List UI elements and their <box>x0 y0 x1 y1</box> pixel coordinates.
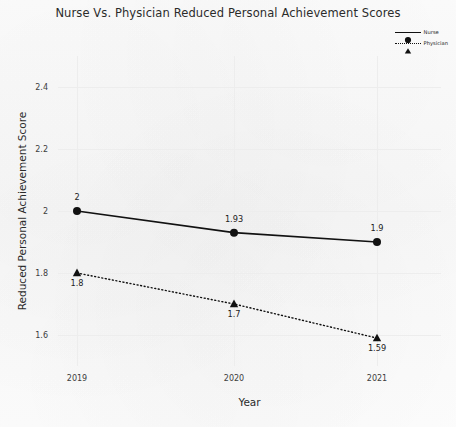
legend-label-nurse: Nurse <box>424 28 439 37</box>
data-point-marker[interactable] <box>230 300 238 308</box>
data-point-marker[interactable] <box>73 269 81 277</box>
chart-legend: Nurse Physician <box>395 28 448 48</box>
y-tick-label: 1.8 <box>14 269 48 278</box>
legend-label-physician: Physician <box>424 39 448 48</box>
y-tick-label: 2.4 <box>14 83 48 92</box>
data-point-label: 1.93 <box>225 214 243 224</box>
chart-container: Nurse Vs. Physician Reduced Personal Ach… <box>0 0 456 427</box>
plot-area: 1.61.822.22.4 201920202021 21.931.91.81.… <box>58 56 441 366</box>
series-layer <box>58 56 441 366</box>
x-axis-title: Year <box>58 396 441 408</box>
series-line-physician <box>77 273 377 338</box>
legend-item-physician[interactable]: Physician <box>395 39 448 48</box>
y-tick-label: 1.6 <box>14 331 48 340</box>
triangle-marker-icon <box>395 39 421 48</box>
circle-marker-icon <box>395 28 421 37</box>
y-tick-label: 2 <box>14 207 48 216</box>
x-tick-label: 2019 <box>67 374 87 383</box>
chart-title: Nurse Vs. Physician Reduced Personal Ach… <box>0 6 456 20</box>
data-point-marker[interactable] <box>73 207 81 215</box>
data-point-label: 1.7 <box>227 309 240 319</box>
y-tick-label: 2.2 <box>14 145 48 154</box>
data-point-label: 1.8 <box>70 278 83 288</box>
data-point-label: 2 <box>74 192 79 202</box>
data-point-marker[interactable] <box>373 238 381 246</box>
data-point-label: 1.9 <box>370 223 383 233</box>
data-point-label: 1.59 <box>368 343 386 353</box>
legend-item-nurse[interactable]: Nurse <box>395 28 448 37</box>
data-point-marker[interactable] <box>230 229 238 237</box>
x-tick-label: 2020 <box>224 374 244 383</box>
x-tick-label: 2021 <box>367 374 387 383</box>
